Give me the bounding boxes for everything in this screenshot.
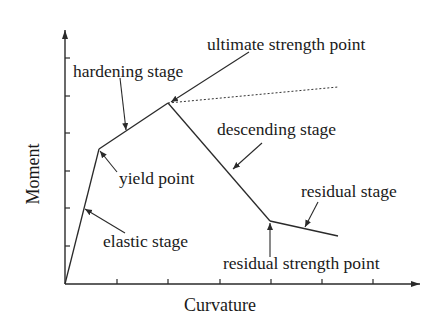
elastic-stage-pointer — [85, 209, 125, 233]
x-axis-label: Curvature — [184, 295, 256, 315]
label-residual-strength-point: residual strength point — [223, 253, 380, 273]
residual-segment — [270, 221, 338, 236]
label-elastic-stage: elastic stage — [103, 231, 188, 251]
label-descending-stage: descending stage — [217, 119, 336, 139]
moment-curvature-diagram: Curvature Moment ultimate strength point… — [0, 0, 438, 333]
annotations: ultimate strength point hardening stage … — [73, 34, 397, 273]
label-hardening-stage: hardening stage — [73, 61, 184, 81]
y-axis-ticks — [65, 58, 70, 246]
label-yield-point: yield point — [119, 168, 194, 188]
hardening-stage-pointer — [120, 78, 126, 130]
hardening-segment — [99, 103, 168, 149]
residual-stage-pointer — [305, 202, 318, 227]
pointer-arrows — [85, 52, 318, 257]
elastic-segment — [65, 149, 99, 284]
yield-point-pointer — [100, 151, 117, 172]
label-residual-stage: residual stage — [301, 181, 397, 201]
dotted-extension — [168, 87, 338, 103]
x-axis-ticks — [117, 279, 373, 284]
descending-stage-pointer — [233, 143, 262, 169]
label-ultimate-strength-point: ultimate strength point — [207, 34, 366, 54]
y-axis-label: Moment — [23, 144, 43, 205]
